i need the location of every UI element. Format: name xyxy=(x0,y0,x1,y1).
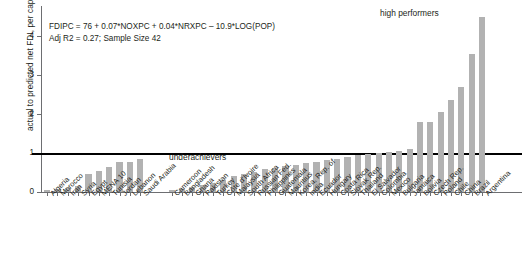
y-tick-label-4: 4 xyxy=(29,31,34,41)
y-tick-label-0: 0 xyxy=(29,187,34,197)
x-axis-category-labels: AlgeriaMoroccoIranSyriaEgyptMENA 10Tunis… xyxy=(41,192,524,259)
chart-figure: actual to predicted net FDI, per capita … xyxy=(0,0,524,259)
underachievers-annotation: underachievers xyxy=(169,152,226,162)
high-performers-annotation: high performers xyxy=(380,8,439,18)
equation-line-1: FDIPC = 76 + 0.07*NOXPC + 0.04*NRXPC – 1… xyxy=(49,21,275,33)
regression-equation-annotation: FDIPC = 76 + 0.07*NOXPC + 0.04*NRXPC – 1… xyxy=(49,21,275,46)
bar-brazil xyxy=(469,54,475,192)
y-tick-label-2: 2 xyxy=(29,109,34,119)
bar-argentina xyxy=(479,17,485,192)
y-tick-label-3: 3 xyxy=(29,70,34,80)
equation-line-2: Adj R2 = 0.27; Sample Size 42 xyxy=(49,33,275,45)
